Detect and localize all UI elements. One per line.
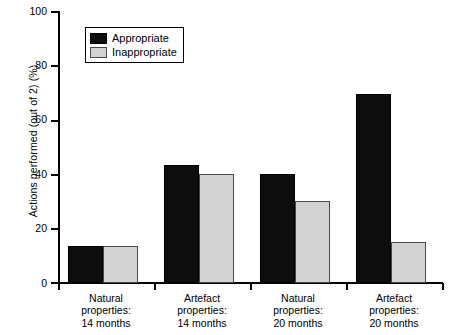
- x-group-label-line-3: 20 months: [250, 317, 346, 329]
- black-swatch-icon: [90, 33, 107, 44]
- y-tick-mark-20: [51, 228, 58, 230]
- x-group-label-natural-20: Natural properties: 20 months: [250, 292, 346, 329]
- legend-item-inappropriate: Inappropriate: [90, 45, 177, 59]
- legend-label-inappropriate: Inappropriate: [112, 47, 177, 58]
- x-group-label-natural-14: Natural properties: 14 months: [58, 292, 154, 329]
- x-group-label-line-1: Artefact: [154, 292, 250, 304]
- bar-inappropriate-artefact-20: [391, 242, 426, 283]
- x-group-label-line-1: Natural: [58, 292, 154, 304]
- bar-inappropriate-natural-20: [295, 201, 330, 283]
- x-group-label-line-1: Natural: [250, 292, 346, 304]
- bar-inappropriate-artefact-14: [199, 174, 234, 283]
- y-tick-mark-0: [51, 282, 58, 284]
- legend-label-appropriate: Appropriate: [112, 33, 169, 44]
- x-group-label-line-1: Artefact: [346, 292, 442, 304]
- x-tick-mark-3: [346, 283, 348, 290]
- legend-item-appropriate: Appropriate: [90, 31, 177, 45]
- x-group-label-line-3: 20 months: [346, 317, 442, 329]
- x-tick-mark-0: [58, 283, 60, 290]
- legend: Appropriate Inappropriate: [85, 27, 184, 63]
- y-tick-label-60: 60: [8, 113, 47, 125]
- y-tick-mark-40: [51, 174, 58, 176]
- y-axis-line: [58, 11, 60, 283]
- bar-appropriate-natural-20: [260, 174, 295, 283]
- bar-chart: Actions performed (out of 2) (%) 100 80 …: [0, 0, 450, 335]
- x-group-label-artefact-14: Artefact properties: 14 months: [154, 292, 250, 329]
- x-tick-mark-2: [250, 283, 252, 290]
- y-tick-label-40: 40: [8, 168, 47, 180]
- x-tick-mark-1: [154, 283, 156, 290]
- x-group-label-artefact-20: Artefact properties: 20 months: [346, 292, 442, 329]
- grey-swatch-icon: [90, 47, 107, 58]
- x-group-label-line-3: 14 months: [154, 317, 250, 329]
- y-tick-label-100: 100: [8, 5, 47, 17]
- bar-appropriate-artefact-20: [356, 94, 391, 283]
- y-tick-label-80: 80: [8, 59, 47, 71]
- x-group-label-line-2: properties:: [250, 304, 346, 316]
- x-group-label-line-2: properties:: [154, 304, 250, 316]
- bar-appropriate-artefact-14: [164, 165, 199, 283]
- y-tick-label-20: 20: [8, 222, 47, 234]
- bar-inappropriate-natural-14: [103, 246, 138, 283]
- x-group-label-line-3: 14 months: [58, 317, 154, 329]
- y-tick-mark-80: [51, 65, 58, 67]
- x-tick-mark-4: [442, 283, 444, 290]
- y-tick-mark-60: [51, 120, 58, 122]
- y-tick-mark-100: [51, 11, 58, 13]
- x-group-label-line-2: properties:: [346, 304, 442, 316]
- x-group-label-line-2: properties:: [58, 304, 154, 316]
- y-tick-label-0: 0: [8, 277, 47, 289]
- bar-appropriate-natural-14: [68, 246, 103, 283]
